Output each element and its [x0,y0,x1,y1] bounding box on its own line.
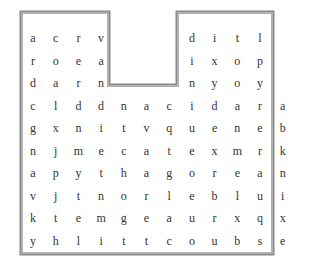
grid-cell[interactable]: l [45,95,67,117]
grid-cell[interactable]: t [226,27,248,49]
grid-cell[interactable]: u [249,185,271,207]
grid-cell[interactable]: l [249,27,271,49]
grid-cell[interactable]: i [204,27,226,49]
grid-cell[interactable]: x [272,207,286,229]
grid-cell[interactable]: c [158,230,180,252]
grid-cell[interactable]: y [22,230,44,252]
grid-cell[interactable]: o [226,72,248,94]
grid-cell[interactable]: o [226,50,248,72]
grid-cell[interactable]: u [181,207,203,229]
grid-cell[interactable]: k [272,140,286,162]
grid-cell[interactable]: a [272,95,286,117]
grid-cell[interactable]: h [45,230,67,252]
grid-cell[interactable]: m [67,140,89,162]
grid-cell[interactable]: e [90,140,112,162]
grid-cell[interactable]: s [249,230,271,252]
grid-cell[interactable]: x [45,117,67,139]
grid-cell[interactable]: t [158,140,180,162]
grid-cell[interactable]: t [136,230,158,252]
grid-cell[interactable]: c [113,140,135,162]
grid-cell[interactable]: p [45,162,67,184]
grid-cell[interactable]: i [90,117,112,139]
grid-cell[interactable]: o [113,185,135,207]
grid-cell[interactable]: o [181,230,203,252]
grid-cell[interactable]: e [67,207,89,229]
grid-cell[interactable]: d [67,95,89,117]
grid-cell[interactable]: b [204,185,226,207]
grid-cell[interactable]: a [136,162,158,184]
grid-cell[interactable]: t [113,230,135,252]
grid-cell[interactable]: o [45,50,67,72]
grid-cell[interactable]: y [249,72,271,94]
grid-cell[interactable]: n [113,95,135,117]
grid-cell[interactable]: b [226,230,248,252]
grid-cell[interactable]: q [249,207,271,229]
grid-cell[interactable]: j [45,140,67,162]
grid-cell[interactable]: y [204,72,226,94]
grid-cell[interactable]: v [22,185,44,207]
grid-cell[interactable]: d [22,72,44,94]
grid-cell[interactable]: r [67,72,89,94]
grid-cell[interactable]: t [113,117,135,139]
grid-cell[interactable]: e [249,117,271,139]
grid-cell[interactable]: i [272,185,286,207]
grid-cell[interactable]: a [90,50,112,72]
grid-cell[interactable]: a [136,95,158,117]
grid-cell[interactable]: m [90,207,112,229]
grid-cell[interactable]: g [22,117,44,139]
grid-cell[interactable]: c [45,27,67,49]
grid-cell[interactable]: m [226,140,248,162]
grid-cell[interactable]: y [67,162,89,184]
grid-cell[interactable]: c [22,95,44,117]
grid-cell[interactable]: i [181,50,203,72]
grid-cell[interactable]: i [90,230,112,252]
grid-cell[interactable]: n [226,117,248,139]
grid-cell[interactable]: r [249,95,271,117]
grid-cell[interactable]: l [67,230,89,252]
grid-cell[interactable]: a [45,72,67,94]
grid-cell[interactable]: n [67,117,89,139]
grid-cell[interactable]: x [226,207,248,229]
grid-cell[interactable]: d [181,27,203,49]
grid-cell[interactable]: d [90,95,112,117]
grid-cell[interactable]: e [136,207,158,229]
grid-cell[interactable]: u [204,230,226,252]
grid-cell[interactable]: l [226,185,248,207]
grid-cell[interactable]: n [181,72,203,94]
grid-cell[interactable]: e [181,140,203,162]
grid-cell[interactable]: e [181,185,203,207]
grid-cell[interactable]: g [158,162,180,184]
grid-cell[interactable]: k [22,207,44,229]
grid-cell[interactable]: n [22,140,44,162]
grid-cell[interactable]: x [204,50,226,72]
grid-cell[interactable]: t [90,162,112,184]
grid-cell[interactable]: p [249,50,271,72]
grid-cell[interactable]: n [90,185,112,207]
grid-cell[interactable]: c [158,95,180,117]
grid-cell[interactable]: n [272,162,286,184]
grid-cell[interactable]: v [90,27,112,49]
grid-cell[interactable]: l [158,185,180,207]
grid-cell[interactable]: a [136,140,158,162]
grid-cell[interactable]: r [136,185,158,207]
grid-cell[interactable]: r [204,207,226,229]
grid-cell[interactable]: i [181,95,203,117]
grid-cell[interactable]: d [204,95,226,117]
grid-cell[interactable]: u [181,117,203,139]
grid-cell[interactable]: e [67,50,89,72]
grid-cell[interactable]: n [90,72,112,94]
grid-cell[interactable]: v [136,117,158,139]
grid-cell[interactable]: a [22,27,44,49]
grid-cell[interactable]: a [22,162,44,184]
grid-cell[interactable]: e [226,162,248,184]
grid-cell[interactable]: e [204,117,226,139]
grid-cell[interactable]: r [22,50,44,72]
grid-cell[interactable]: r [249,140,271,162]
grid-cell[interactable]: t [45,207,67,229]
grid-cell[interactable]: x [204,140,226,162]
grid-cell[interactable]: e [272,230,286,252]
grid-cell[interactable]: o [181,162,203,184]
grid-cell[interactable]: q [158,117,180,139]
grid-cell[interactable]: a [158,207,180,229]
grid-cell[interactable]: h [113,162,135,184]
